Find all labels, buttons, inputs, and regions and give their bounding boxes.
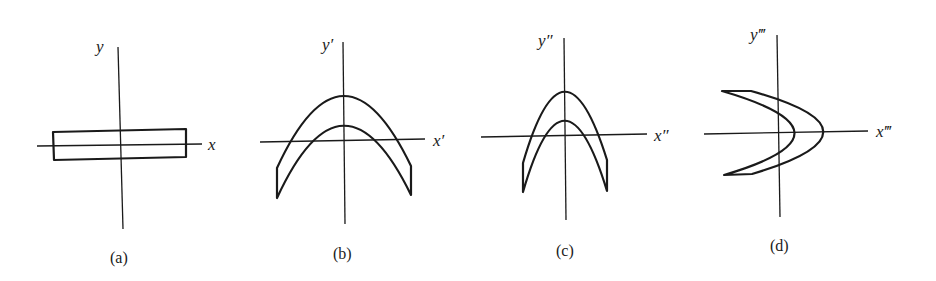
panel-caption: (b) <box>333 245 352 263</box>
y-axis-label: y″ <box>536 31 554 50</box>
panel-c: y″ x″ (c) <box>481 31 670 260</box>
panel-b: y′ x′ (b) <box>260 35 445 263</box>
y-axis <box>564 38 566 220</box>
transformation-figure: y x (a) y′ x′ (b) y″ x″ (c) y‴ x‴ (d) <box>0 0 936 281</box>
y-axis <box>777 35 780 217</box>
y-axis <box>118 47 123 229</box>
y-axis-label: y‴ <box>748 25 766 44</box>
y-axis-label: y′ <box>320 35 334 54</box>
x-axis-label: x″ <box>653 126 670 145</box>
x-axis <box>481 134 647 137</box>
panel-d: y‴ x‴ (d) <box>704 25 892 255</box>
x-axis-label: x′ <box>432 131 445 150</box>
x-axis <box>704 131 868 134</box>
panel-a: y x (a) <box>37 37 216 267</box>
x-axis-label: x <box>207 135 216 154</box>
panel-caption: (c) <box>556 242 574 260</box>
panel-caption: (a) <box>110 249 128 267</box>
panel-caption: (d) <box>770 237 789 255</box>
x-axis-label: x‴ <box>875 122 892 141</box>
x-axis <box>37 144 202 146</box>
y-axis <box>343 42 345 224</box>
x-axis <box>260 139 425 142</box>
y-axis-label: y <box>94 37 104 56</box>
